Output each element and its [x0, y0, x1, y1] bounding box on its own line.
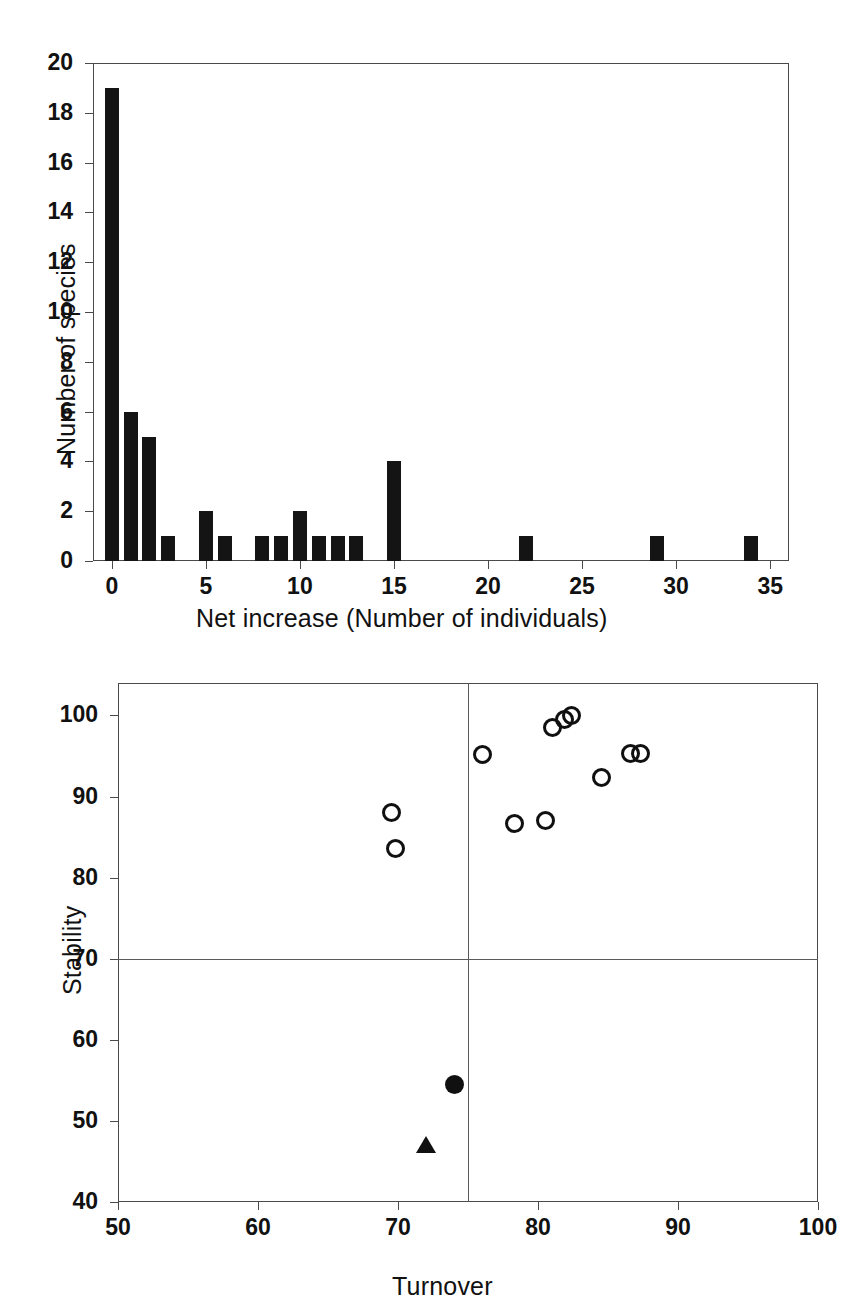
histogram-y-axis-title: Number of species: [52, 243, 81, 455]
scatter-y-tick-label: 100: [34, 701, 98, 728]
scatter-x-tick: [398, 1202, 399, 1210]
scatter-x-axis-title: Turnover: [392, 1272, 493, 1301]
histogram-plot-area: [93, 63, 789, 561]
panel-histogram: 02468101214161820 05101520253035 Number …: [0, 0, 865, 650]
table-row-bar: [161, 536, 175, 561]
scatter-reference-line-horizontal: [118, 959, 818, 960]
scatter-y-axis-title: Stability: [58, 906, 87, 995]
histogram-y-tick: [85, 113, 93, 114]
scatter-x-tick: [118, 1202, 119, 1210]
table-row-bar: [387, 461, 401, 561]
histogram-x-tick-label: 0: [82, 573, 142, 600]
histogram-y-tick-label: 16: [15, 149, 73, 176]
histogram-x-tick-label: 30: [646, 573, 706, 600]
histogram-x-tick: [206, 561, 207, 569]
histogram-y-tick: [85, 63, 93, 64]
scatter-y-tick-label: 40: [34, 1188, 98, 1215]
histogram-x-tick: [300, 561, 301, 569]
scatter-point-open-circle: [386, 839, 405, 858]
scatter-y-tick: [110, 1040, 118, 1041]
scatter-y-tick-label: 60: [34, 1026, 98, 1053]
histogram-x-tick: [488, 561, 489, 569]
scatter-y-tick: [110, 797, 118, 798]
scatter-x-tick-label: 80: [506, 1214, 570, 1241]
scatter-x-tick-label: 60: [226, 1214, 290, 1241]
table-row-bar: [142, 437, 156, 562]
scatter-point-open-circle: [631, 744, 650, 763]
histogram-x-tick-label: 5: [176, 573, 236, 600]
scatter-x-tick-label: 90: [646, 1214, 710, 1241]
histogram-x-tick-label: 25: [552, 573, 612, 600]
scatter-point-filled-circle: [445, 1075, 464, 1094]
scatter-y-tick-label: 90: [34, 783, 98, 810]
histogram-y-tick: [85, 362, 93, 363]
panel-scatter: 405060708090100 5060708090100 Stability …: [0, 650, 865, 1316]
histogram-x-tick-label: 10: [270, 573, 330, 600]
histogram-x-tick: [770, 561, 771, 569]
table-row-bar: [650, 536, 664, 561]
histogram-x-tick-label: 35: [740, 573, 800, 600]
histogram-y-tick: [85, 312, 93, 313]
scatter-y-tick: [110, 715, 118, 716]
scatter-point-open-circle: [536, 811, 555, 830]
scatter-reference-line-vertical: [468, 683, 469, 1202]
histogram-y-tick: [85, 511, 93, 512]
scatter-point-open-circle: [592, 768, 611, 787]
histogram-x-tick: [112, 561, 113, 569]
histogram-y-tick: [85, 163, 93, 164]
histogram-y-tick: [85, 561, 93, 562]
histogram-y-tick: [85, 412, 93, 413]
table-row-bar: [255, 536, 269, 561]
scatter-point-open-circle: [562, 706, 581, 725]
histogram-x-axis-title: Net increase (Number of individuals): [196, 604, 608, 633]
histogram-y-tick-label: 0: [15, 547, 73, 574]
scatter-x-tick-label: 50: [86, 1214, 150, 1241]
histogram-x-tick: [676, 561, 677, 569]
scatter-x-tick-label: 70: [366, 1214, 430, 1241]
table-row-bar: [331, 536, 345, 561]
scatter-x-tick: [538, 1202, 539, 1210]
table-row-bar: [519, 536, 533, 561]
table-row-bar: [199, 511, 213, 561]
scatter-y-tick-label: 80: [34, 864, 98, 891]
scatter-y-tick: [110, 959, 118, 960]
scatter-y-tick: [110, 1121, 118, 1122]
table-row-bar: [312, 536, 326, 561]
histogram-y-tick: [85, 461, 93, 462]
histogram-y-tick-label: 14: [15, 198, 73, 225]
scatter-y-tick: [110, 878, 118, 879]
scatter-y-tick: [110, 1202, 118, 1203]
table-row-bar: [218, 536, 232, 561]
scatter-y-tick-label: 50: [34, 1107, 98, 1134]
histogram-x-tick: [582, 561, 583, 569]
table-row-bar: [349, 536, 363, 561]
histogram-y-tick-label: 20: [15, 49, 73, 76]
scatter-x-tick: [258, 1202, 259, 1210]
scatter-point-filled-triangle: [416, 1136, 436, 1153]
scatter-x-tick-label: 100: [786, 1214, 850, 1241]
scatter-x-tick: [818, 1202, 819, 1210]
histogram-y-tick-label: 2: [15, 497, 73, 524]
histogram-y-tick: [85, 262, 93, 263]
histogram-x-tick-label: 20: [458, 573, 518, 600]
histogram-y-tick-label: 18: [15, 99, 73, 126]
table-row-bar: [105, 88, 119, 561]
figure-root: 02468101214161820 05101520253035 Number …: [0, 0, 865, 1316]
scatter-point-open-circle: [473, 745, 492, 764]
table-row-bar: [293, 511, 307, 561]
scatter-point-open-circle: [505, 814, 524, 833]
scatter-x-tick: [678, 1202, 679, 1210]
table-row-bar: [744, 536, 758, 561]
histogram-x-tick: [394, 561, 395, 569]
histogram-y-tick: [85, 212, 93, 213]
table-row-bar: [274, 536, 288, 561]
histogram-x-tick-label: 15: [364, 573, 424, 600]
table-row-bar: [124, 412, 138, 561]
scatter-point-open-circle: [382, 803, 401, 822]
